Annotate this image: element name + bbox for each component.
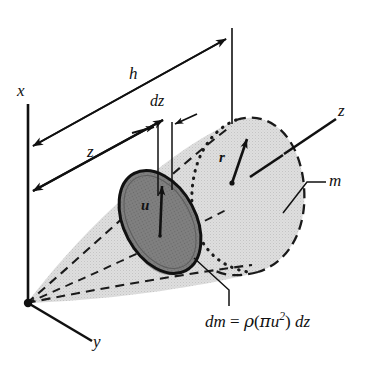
formula-dz: dz: [295, 312, 310, 331]
thickness-dimension-label: dz: [150, 93, 164, 109]
cone-mass-element-figure: x y z h z dz u r m dm = ρ(πu2) dz: [0, 0, 372, 367]
formula-pi: π: [260, 311, 271, 331]
differential-mass-formula: dm = ρ(πu2) dz: [205, 311, 310, 330]
distance-dimension-label: z: [87, 143, 94, 160]
h-dimension-arrow-reverse: [33, 39, 226, 146]
dz-arrow-left: [132, 127, 154, 133]
u-radius-origin-dot: [158, 234, 162, 238]
y-axis-label: y: [93, 333, 101, 350]
z-axis-label: z: [338, 102, 345, 119]
formula-lhs: dm: [205, 312, 226, 331]
height-dimension-label: h: [129, 65, 138, 82]
element-radius-label: u: [141, 198, 149, 213]
dz-arrow-right: [175, 114, 197, 124]
base-radius-label: r: [219, 150, 225, 165]
formula-u: u: [271, 312, 280, 331]
figure-svg: [0, 0, 372, 367]
mass-label: m: [329, 172, 341, 189]
z-axis-line-far: [284, 119, 336, 154]
dimension-h: [33, 28, 232, 146]
y-axis-line: [28, 303, 92, 341]
r-radius-origin-dot: [229, 180, 234, 185]
x-axis-label: x: [17, 82, 25, 99]
formula-density: ρ: [244, 311, 254, 331]
origin-dot-icon: [24, 299, 32, 307]
formula-equals: =: [230, 312, 240, 331]
